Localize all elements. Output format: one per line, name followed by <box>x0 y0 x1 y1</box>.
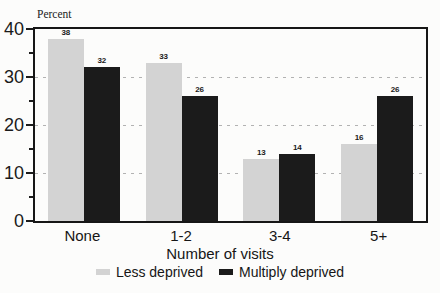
y-axis-title: Percent <box>37 8 71 20</box>
bars-layer: 3832332613141626 <box>35 29 426 221</box>
x-axis-title: Number of visits <box>0 245 440 262</box>
bar-group-5-: 1626 <box>328 29 426 221</box>
y-tick-label-20: 20 <box>0 115 24 135</box>
bar-multiply-deprived <box>84 67 120 221</box>
bar-value-label: 26 <box>377 85 413 94</box>
bar-value-label: 13 <box>243 148 279 157</box>
x-category-3-4: 3-4 <box>231 227 330 244</box>
y-tick-label-30: 30 <box>0 67 24 87</box>
y-tick-major-10 <box>26 172 33 174</box>
x-category-5-: 5+ <box>329 227 428 244</box>
bar-multiply-deprived <box>279 154 315 221</box>
bar-value-label: 14 <box>279 143 315 152</box>
bar-chart-figure: Percent 3832332613141626 010203040 None1… <box>0 0 440 293</box>
legend-label-less-deprived: Less deprived <box>116 264 203 280</box>
y-tick-label-10: 10 <box>0 163 24 183</box>
legend: Less deprived Multiply deprived <box>0 263 440 281</box>
x-category-none: None <box>33 227 132 244</box>
legend-item-less-deprived: Less deprived <box>96 264 203 280</box>
legend-label-multiply-deprived: Multiply deprived <box>239 264 344 280</box>
bar-less-deprived <box>243 159 279 221</box>
bar-group-none: 3832 <box>35 29 133 221</box>
y-tick-major-20 <box>26 124 33 126</box>
bar-group-3-4: 1314 <box>231 29 329 221</box>
bar-value-label: 33 <box>146 52 182 61</box>
bar-less-deprived <box>146 63 182 221</box>
bar-value-label: 26 <box>182 85 218 94</box>
bar-value-label: 16 <box>341 133 377 142</box>
bar-group-1-2: 3326 <box>133 29 231 221</box>
y-tick-label-40: 40 <box>0 19 24 39</box>
y-tick-major-0 <box>26 220 33 222</box>
bar-value-label: 38 <box>48 28 84 37</box>
y-axis: 010203040 <box>0 27 33 223</box>
legend-swatch-less-deprived <box>96 269 110 275</box>
legend-swatch-multiply-deprived <box>219 269 233 275</box>
bar-pair: 1314 <box>243 29 315 221</box>
bar-multiply-deprived <box>182 96 218 221</box>
bar-less-deprived <box>48 39 84 221</box>
bar-pair: 3326 <box>146 29 218 221</box>
y-tick-label-0: 0 <box>0 211 24 231</box>
bar-multiply-deprived <box>377 96 413 221</box>
legend-item-multiply-deprived: Multiply deprived <box>219 264 344 280</box>
bar-pair: 1626 <box>341 29 413 221</box>
y-tick-minor-15 <box>29 148 33 150</box>
y-tick-minor-25 <box>29 100 33 102</box>
y-tick-minor-35 <box>29 52 33 54</box>
bar-pair: 3832 <box>48 29 120 221</box>
y-tick-minor-5 <box>29 196 33 198</box>
plot-area: 3832332613141626 <box>33 27 428 223</box>
x-axis-categories: None1-23-45+ <box>33 227 428 245</box>
y-tick-major-40 <box>26 28 33 30</box>
y-tick-major-30 <box>26 76 33 78</box>
bar-less-deprived <box>341 144 377 221</box>
x-category-1-2: 1-2 <box>132 227 231 244</box>
bar-value-label: 32 <box>84 56 120 65</box>
